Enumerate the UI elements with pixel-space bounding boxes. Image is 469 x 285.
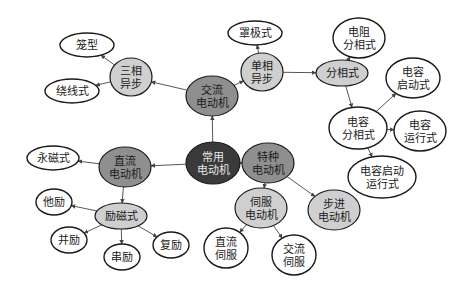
node-label: 直流 xyxy=(215,235,237,249)
edge-dc-to-permanent_magnet xyxy=(78,161,99,164)
node-label: 三相 xyxy=(120,65,142,78)
node-separately-excited: 他励 xyxy=(36,189,72,215)
node-stepper: 步进电动机 xyxy=(308,190,360,230)
node-three-phase: 三相异步 xyxy=(110,58,152,96)
node-shunt: 并励 xyxy=(51,227,87,253)
node-label: 分相式 xyxy=(343,39,376,52)
edge-cap_split-to-cap_start xyxy=(376,94,396,112)
node-label: 复励 xyxy=(160,238,182,252)
edge-servo-to-ac_servo xyxy=(273,226,282,239)
edge-three_phase-to-cage xyxy=(101,55,115,65)
node-dc: 直流电动机 xyxy=(99,147,151,187)
node-series: 串励 xyxy=(104,244,140,270)
node-label: 运行式 xyxy=(366,178,399,191)
node-label: 罩极式 xyxy=(239,26,272,40)
node-root: 常用电动机 xyxy=(186,142,240,184)
node-label: 笼型 xyxy=(76,38,98,52)
node-label: 电动机 xyxy=(252,163,285,177)
edge-ac-to-three_phase xyxy=(151,82,187,90)
node-label: 并励 xyxy=(58,233,80,247)
node-label: 异步 xyxy=(251,73,273,86)
node-ac-servo: 交流伺服 xyxy=(272,235,316,275)
node-label: 电阻 xyxy=(348,26,370,39)
node-cap-run: 电容运行式 xyxy=(394,111,446,151)
node-excited: 励磁式 xyxy=(95,203,147,229)
node-label: 电动机 xyxy=(245,208,278,222)
node-label: 永磁式 xyxy=(37,151,70,165)
node-label: 特种 xyxy=(257,150,279,164)
node-label: 异步 xyxy=(120,78,142,91)
node-single-phase: 单相异步 xyxy=(241,53,283,91)
node-label: 他励 xyxy=(43,196,65,209)
edge-excited-to-compound xyxy=(138,226,157,237)
node-label: 单相 xyxy=(251,60,273,73)
node-label: 电动机 xyxy=(197,163,230,177)
edge-servo-to-dc_servo xyxy=(240,225,247,233)
node-label: 启动式 xyxy=(397,79,430,92)
node-compound: 复励 xyxy=(153,232,189,258)
node-label: 励磁式 xyxy=(105,210,138,223)
node-wound: 绕线式 xyxy=(45,79,99,103)
node-layer: 常用电动机交流电动机直流电动机特种电动机三相异步单相异步分相式励磁式伺服电动机步… xyxy=(27,18,446,275)
node-dc-servo: 直流伺服 xyxy=(204,228,248,268)
node-label: 伺服 xyxy=(250,196,272,209)
node-permanent-magnet: 永磁式 xyxy=(27,146,79,170)
node-resistor-split: 电阻分相式 xyxy=(333,18,385,58)
node-label: 伺服 xyxy=(283,256,305,269)
node-label: 常用 xyxy=(202,151,224,164)
node-label: 交流 xyxy=(283,242,305,256)
node-label: 串励 xyxy=(111,251,133,264)
edge-special-to-servo xyxy=(264,183,265,188)
node-label: 步进 xyxy=(323,198,345,211)
node-label: 伺服 xyxy=(215,249,237,262)
edge-root-to-dc xyxy=(151,164,186,166)
node-label: 电容 xyxy=(347,115,369,129)
edge-excited-to-separately_excited xyxy=(71,206,97,211)
node-label: 电动机 xyxy=(109,167,142,181)
node-label: 电动机 xyxy=(318,210,351,224)
node-cap-split: 电容分相式 xyxy=(329,107,387,149)
node-label: 电动机 xyxy=(196,96,229,110)
edge-excited-to-shunt xyxy=(84,225,102,233)
node-label: 绕线式 xyxy=(56,84,89,98)
edge-split_phase-to-cap_split xyxy=(346,86,352,108)
edge-dc-to-excited xyxy=(122,187,123,203)
edge-three_phase-to-wound xyxy=(96,82,111,86)
node-shaded-pole: 罩极式 xyxy=(228,21,282,45)
motor-classification-diagram: 常用电动机交流电动机直流电动机特种电动机三相异步单相异步分相式励磁式伺服电动机步… xyxy=(0,0,469,285)
edge-special-to-stepper xyxy=(287,177,315,197)
edge-single_phase-to-shaded_pole xyxy=(257,45,259,53)
node-label: 分相式 xyxy=(326,67,359,80)
node-label: 分相式 xyxy=(342,129,375,142)
node-label: 交流 xyxy=(201,83,223,97)
node-cage: 笼型 xyxy=(60,33,114,57)
node-label: 电容启动 xyxy=(360,164,404,178)
node-label: 电容 xyxy=(409,118,431,132)
node-ac: 交流电动机 xyxy=(186,76,238,116)
node-cap-start: 电容启动式 xyxy=(386,58,440,98)
node-label: 直流 xyxy=(114,154,136,168)
edge-cap_split-to-cap_start_run xyxy=(368,148,373,157)
node-special: 特种电动机 xyxy=(242,143,294,183)
node-split-phase: 分相式 xyxy=(316,60,368,86)
node-label: 运行式 xyxy=(404,132,437,145)
edge-ac-to-single_phase xyxy=(234,81,243,86)
node-label: 电容 xyxy=(402,65,424,79)
node-cap-start-run: 电容启动运行式 xyxy=(348,156,416,198)
node-servo: 伺服电动机 xyxy=(235,188,287,228)
